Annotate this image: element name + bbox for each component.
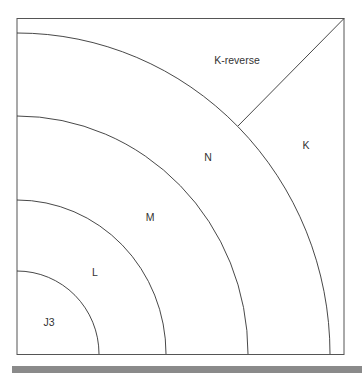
region-label-k-reverse: K-reverse — [214, 54, 260, 66]
region-label-n: N — [204, 151, 212, 163]
region-label-j3: J3 — [43, 316, 54, 328]
region-label-m: M — [146, 211, 155, 223]
region-label-k: K — [302, 139, 309, 151]
region-label-l: L — [92, 266, 98, 278]
bottom-divider-bar — [12, 366, 362, 373]
